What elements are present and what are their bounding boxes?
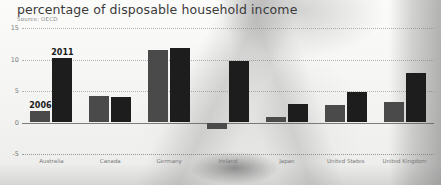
bar <box>325 105 345 122</box>
x-axis-label: Germany <box>157 158 182 164</box>
x-axis-label: Australia <box>39 158 63 164</box>
bar <box>266 117 286 123</box>
chart-title: percentage of disposable household incom… <box>17 2 297 17</box>
background-bottom-strip <box>0 163 441 185</box>
bars-layer: 20062011 <box>22 28 434 154</box>
bar <box>288 104 308 122</box>
x-axis-label: United Kingdom <box>382 158 426 164</box>
y-axis-tick-label: 5 <box>15 87 19 95</box>
bar <box>30 111 50 122</box>
bar <box>207 123 227 130</box>
y-axis-tick-label: 0 <box>15 119 19 127</box>
x-axis-label: Canada <box>100 158 121 164</box>
chart-figure: percentage of disposable household incom… <box>0 0 441 185</box>
bar <box>170 48 190 122</box>
bar <box>52 58 72 123</box>
x-axis-line <box>22 154 434 155</box>
y-axis-tick-label: -5 <box>13 150 19 158</box>
plot-area: -5051015 20062011 AustraliaCanadaGermany… <box>22 28 434 154</box>
bar <box>347 92 367 123</box>
x-axis-label: United States <box>327 158 364 164</box>
y-axis-tick-label: 10 <box>11 56 19 64</box>
bar <box>384 102 404 123</box>
chart-source: Source: OECD <box>17 16 58 22</box>
background-dark-blob <box>175 150 295 185</box>
x-axis-label: Ireland <box>218 158 237 164</box>
bar <box>229 61 249 123</box>
bar <box>148 50 168 122</box>
bar <box>89 96 109 122</box>
bar <box>111 97 131 122</box>
y-axis-tick-label: 15 <box>11 24 19 32</box>
series-label-2006: 2006 <box>29 101 51 110</box>
bar <box>406 73 426 123</box>
series-label-2011: 2011 <box>51 48 73 57</box>
x-axis-label: Japan <box>279 158 294 164</box>
